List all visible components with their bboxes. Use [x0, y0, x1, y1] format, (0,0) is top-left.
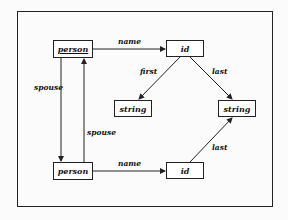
- label-last-bottom: last: [212, 143, 227, 152]
- label-name-bottom: name: [118, 159, 141, 168]
- label-last-top: last: [212, 67, 227, 76]
- edge-last-top: [190, 57, 232, 99]
- edge-last-bottom: [190, 118, 232, 162]
- label-spouse-left: spouse: [34, 83, 63, 92]
- node-person-bottom: person: [53, 162, 93, 180]
- node-string-right: string: [218, 100, 256, 117]
- node-id-bottom: id: [166, 162, 204, 179]
- node-id-top: id: [166, 40, 204, 57]
- label-first: first: [140, 67, 157, 76]
- label-name-top: name: [118, 37, 141, 46]
- node-person-top: person: [53, 40, 93, 58]
- label-spouse-right: spouse: [87, 128, 116, 137]
- edge-first: [139, 57, 180, 99]
- node-string-left: string: [114, 100, 152, 117]
